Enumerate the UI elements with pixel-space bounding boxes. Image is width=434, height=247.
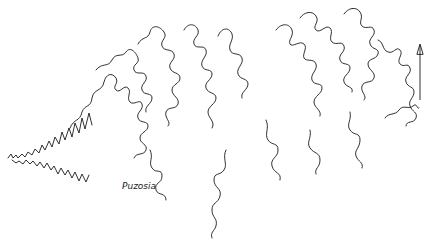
suture-lobe-5: [218, 29, 248, 98]
suture-branch-down-1: [150, 150, 166, 200]
suture-lobe-1: [70, 75, 148, 158]
suture-lobe-8: [344, 8, 378, 100]
suture-branch-down-2: [211, 150, 226, 238]
suture-branch-down-5: [349, 112, 363, 168]
suture-lobe-7: [300, 12, 352, 92]
suture-branch-down-4: [309, 130, 320, 174]
suture-branch-down-3: [266, 120, 280, 180]
suture-lobe-3: [138, 27, 180, 126]
suture-drawing: [0, 0, 434, 247]
figure-caption: Puzosia: [122, 181, 156, 191]
suture-lobe-6: [276, 25, 322, 116]
suture-tail-left: [8, 113, 92, 158]
suture-right-edge: [378, 40, 416, 126]
suture-tail-left-lower: [12, 160, 89, 182]
suture-lobe-4: [184, 25, 216, 128]
